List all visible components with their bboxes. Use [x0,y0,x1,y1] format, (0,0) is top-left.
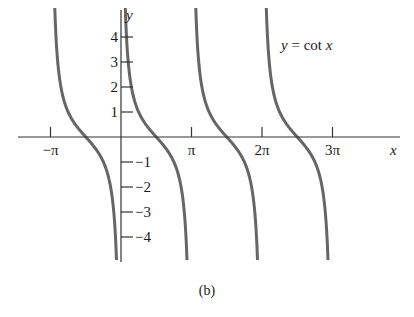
x-tick-label: π [188,142,196,158]
y-tick-label: −2 [135,179,151,195]
cot-chart: −ππ2π3π 4321−1−2−3−4 y x y = cot x (b) [0,0,414,317]
y-tick-label: 2 [111,79,119,95]
x-tick-label: 3π [325,142,341,158]
cot-branch-0 [55,8,117,260]
axes [18,10,400,262]
y-tick-label: 1 [111,104,119,120]
caption: (b) [199,283,216,299]
y-tick-label: −3 [135,204,151,220]
cot-branch-2 [196,8,258,260]
y-tick-label: 4 [111,29,119,45]
y-tick-label: −4 [135,229,151,245]
x-ticks: −ππ2π3π [42,127,340,158]
x-tick-label: −π [42,142,58,158]
y-axis-label: y [124,7,133,23]
x-axis-label: x [389,142,397,158]
cot-branch-1 [125,8,187,260]
y-tick-label: 3 [111,54,119,70]
function-label: y = cot x [279,37,333,53]
y-tick-label: −1 [135,154,151,170]
x-tick-label: 2π [254,142,270,158]
